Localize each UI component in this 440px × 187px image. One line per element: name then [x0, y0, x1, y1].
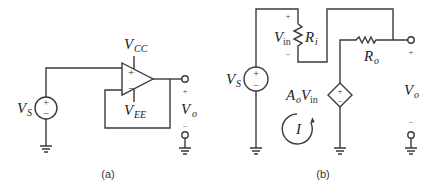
svg-text:+: +: [253, 68, 259, 79]
output-terminal-bottom: [408, 132, 414, 138]
svg-text:−: −: [183, 122, 188, 131]
ground-icon: [40, 146, 52, 152]
ground-icon: [334, 148, 346, 154]
opamp-triangle: + −: [122, 63, 153, 95]
svg-text:−: −: [409, 118, 414, 127]
svg-text:+: +: [337, 86, 342, 96]
vee-label-sub: EE: [133, 109, 146, 120]
output-terminal-top: [182, 76, 188, 82]
circuit-diagrams: + − V S + − V CC V EE + V o −: [0, 0, 440, 187]
svg-text:+: +: [183, 87, 188, 96]
ground-icon: [250, 148, 262, 154]
svg-text:−: −: [128, 82, 134, 94]
svg-text:−: −: [43, 108, 49, 119]
vs-label-sub: S: [236, 78, 241, 89]
svg-text:+: +: [128, 66, 134, 78]
wire-input: [46, 68, 122, 97]
current-label: I: [295, 121, 302, 137]
ground-icon: [179, 148, 191, 154]
voltage-source-vs: + −: [244, 67, 268, 91]
output-terminal-top: [408, 37, 414, 43]
svg-text:in: in: [310, 94, 318, 105]
svg-text:+: +: [43, 97, 49, 108]
svg-text:−: −: [253, 80, 259, 91]
caption-b: (b): [316, 168, 329, 180]
svg-text:−: −: [286, 50, 291, 59]
dep-label-a: A: [285, 87, 296, 103]
caption-a: (a): [101, 168, 114, 180]
output-terminal-bottom: [182, 132, 188, 138]
ro-label: R: [363, 48, 373, 64]
dependent-voltage-source: + −: [328, 83, 352, 107]
vo-label-sub: o: [192, 108, 197, 119]
ground-icon: [405, 148, 417, 154]
svg-text:+: +: [409, 48, 414, 57]
vs-label-sub: S: [27, 107, 32, 118]
figure-b: + − V S + V in − R i R o + − A o V in: [226, 9, 419, 180]
vo-label: V: [181, 101, 192, 117]
svg-text:−: −: [337, 96, 342, 106]
voltage-source-vs: + −: [35, 97, 57, 119]
ro-label-sub: o: [374, 55, 379, 66]
vin-label-sub: in: [283, 36, 291, 47]
vo-label-sub: o: [414, 89, 419, 100]
ri-label-sub: i: [315, 36, 318, 47]
ri-label: R: [304, 29, 314, 45]
figure-a: + − V S + − V CC V EE + V o −: [17, 36, 197, 180]
vcc-label-sub: CC: [134, 43, 148, 54]
svg-text:+: +: [286, 12, 291, 21]
